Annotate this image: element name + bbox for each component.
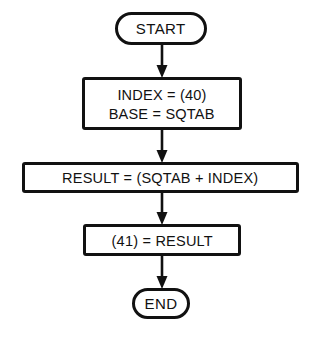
flowchart-node-init: INDEX = (40) BASE = SQTAB xyxy=(82,77,242,130)
flowchart-node-store-label: (41) = RESULT xyxy=(111,231,212,250)
flowchart-diagram: START INDEX = (40) BASE = SQTAB RESULT =… xyxy=(0,0,320,345)
flowchart-node-init-line-1: INDEX = (40) xyxy=(117,85,206,104)
edge-result-to-store xyxy=(157,193,168,225)
flowchart-node-start-label: START xyxy=(136,19,186,38)
flowchart-node-end-label: END xyxy=(145,294,178,313)
flowchart-node-start: START xyxy=(115,12,207,45)
edge-init-to-result xyxy=(157,130,168,163)
edge-store-to-end xyxy=(157,256,168,289)
flowchart-node-store: (41) = RESULT xyxy=(83,224,241,256)
flowchart-node-result: RESULT = (SQTAB + INDEX) xyxy=(22,162,299,193)
edge-start-to-init xyxy=(157,45,168,78)
flowchart-node-result-label: RESULT = (SQTAB + INDEX) xyxy=(62,168,258,187)
flowchart-node-init-line-2: BASE = SQTAB xyxy=(109,104,215,123)
flowchart-node-end: END xyxy=(132,288,190,319)
